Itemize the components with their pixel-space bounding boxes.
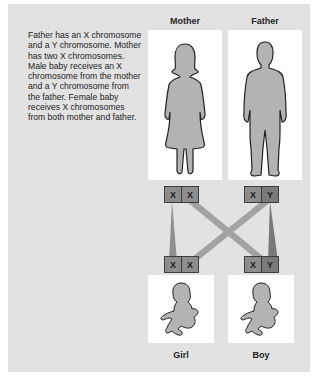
connector-father-to-boy [268,201,278,262]
chromosome-y: Y [261,187,278,202]
chromosome-x: X [245,187,261,202]
girl-chromosomes: X X [164,256,199,273]
boy-chromosomes: X Y [244,256,279,273]
boy-card [228,275,294,343]
chromosome-x: X [181,187,198,202]
girl-card [148,275,214,343]
connector-mother-to-girl [169,201,177,262]
chromosome-x: X [165,257,181,272]
baby-girl-icon [148,275,214,343]
mother-chromosomes: X X [164,186,199,203]
girl-label: Girl [148,350,214,360]
chromosome-x: X [165,187,181,202]
baby-boy-icon [228,275,294,343]
chromosome-x: X [181,257,198,272]
boy-label: Boy [228,350,294,360]
chromosome-y: Y [261,257,278,272]
chromosome-x: X [245,257,261,272]
father-chromosomes: X Y [244,186,279,203]
